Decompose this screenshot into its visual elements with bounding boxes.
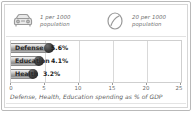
car-icon: [10, 10, 36, 32]
axis-label-15: 15: [109, 85, 116, 91]
bar-label-defense: Defense: [15, 43, 44, 53]
bar-value-education: 4.1%: [51, 56, 68, 66]
bar-row: Health 3.2%: [11, 68, 181, 81]
legend: 1 per 1000 population 20 per 1000 popula…: [6, 6, 186, 36]
bar-chart-plot: Defense 5.6% Education 4.1% Health 3.2%: [10, 40, 182, 83]
caption-rule: [6, 103, 186, 104]
legend-item-dish: 20 per 1000 population: [98, 6, 186, 36]
infographic-panel: 1 per 1000 population 20 per 1000 popula…: [0, 0, 194, 114]
axis-label-10: 10: [75, 85, 82, 91]
bar-value-defense: 5.6%: [51, 43, 68, 53]
axis-label-5: 5: [42, 85, 45, 91]
legend-divider: [6, 36, 186, 37]
axis-label-0: 0: [9, 85, 12, 91]
bar-value-health: 3.2%: [43, 69, 60, 79]
legend-item-cars: 1 per 1000 population: [6, 6, 98, 36]
satellite-dish-icon: [102, 10, 128, 32]
axis-label-20: 20: [143, 85, 150, 91]
legend-label-dish: 20 per 1000 population: [132, 14, 166, 27]
axis-label-25: 25: [176, 85, 183, 91]
bar-label-education: Education: [15, 56, 50, 66]
chart-caption: Defense, Health, Education spending as %…: [10, 93, 186, 100]
bar-row: Defense 5.6%: [11, 42, 181, 55]
x-axis: 0 5 10 15 20 25: [10, 83, 182, 92]
bar-row: Education 4.1%: [11, 55, 181, 68]
legend-label-cars: 1 per 1000 population: [40, 14, 71, 27]
bar-label-health: Health: [15, 69, 38, 79]
